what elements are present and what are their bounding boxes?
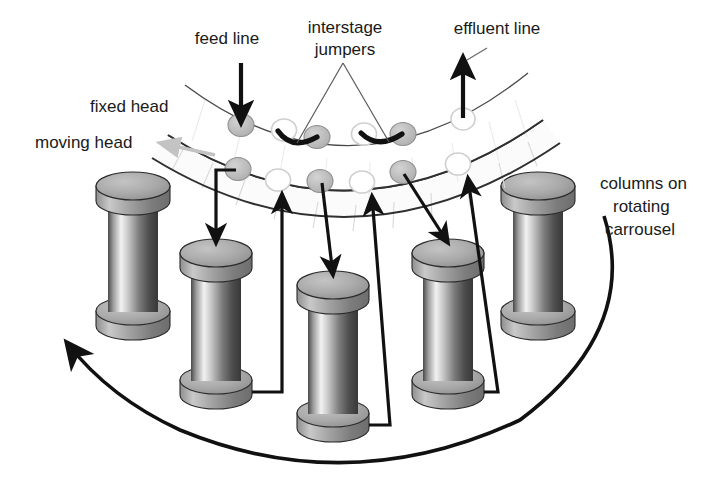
label-feed-line: feed line bbox=[195, 29, 259, 48]
port-mh-open-2 bbox=[350, 171, 375, 193]
port-mh-open-3 bbox=[446, 153, 471, 175]
label-columns-on-rotating-carrousel-line1: columns on bbox=[600, 174, 687, 193]
label-columns-on-rotating-carrousel-line3: carrousel bbox=[605, 220, 675, 239]
label-interstage-jumpers-line2: jumpers bbox=[314, 40, 375, 59]
label-interstage-jumpers-line1: interstage bbox=[308, 18, 383, 37]
label-moving-head: moving head bbox=[35, 133, 132, 152]
label-columns-on-rotating-carrousel-line2: rotating bbox=[613, 197, 670, 216]
label-effluent-line: effluent line bbox=[454, 19, 541, 38]
label-fixed-head: fixed head bbox=[90, 97, 168, 116]
port-mh-2 bbox=[307, 170, 333, 193]
port-mh-3 bbox=[390, 161, 416, 184]
carrousel-chromatography-diagram: feed line interstage jumpers effluent li… bbox=[0, 0, 711, 485]
port-mh-open-1 bbox=[266, 169, 291, 191]
